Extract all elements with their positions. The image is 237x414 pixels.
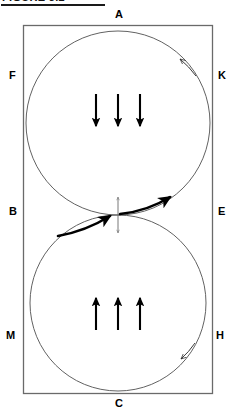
lower-field-arrows xyxy=(96,298,140,330)
label-E: E xyxy=(218,206,225,217)
upper-field-arrows xyxy=(96,94,140,126)
diagram-stage: FIGURE 3.2 xyxy=(0,0,237,414)
label-K: K xyxy=(218,70,226,81)
upper-circle-arrowhead xyxy=(180,59,196,76)
label-M: M xyxy=(6,330,15,341)
right-bold-tangent-arrow xyxy=(120,197,170,214)
label-B: B xyxy=(9,206,17,217)
label-C: C xyxy=(115,398,123,409)
flow-diagram xyxy=(0,0,237,414)
label-H: H xyxy=(216,330,224,341)
label-A: A xyxy=(115,9,123,20)
label-F: F xyxy=(9,70,16,81)
left-bold-tangent-arrow xyxy=(58,216,110,236)
